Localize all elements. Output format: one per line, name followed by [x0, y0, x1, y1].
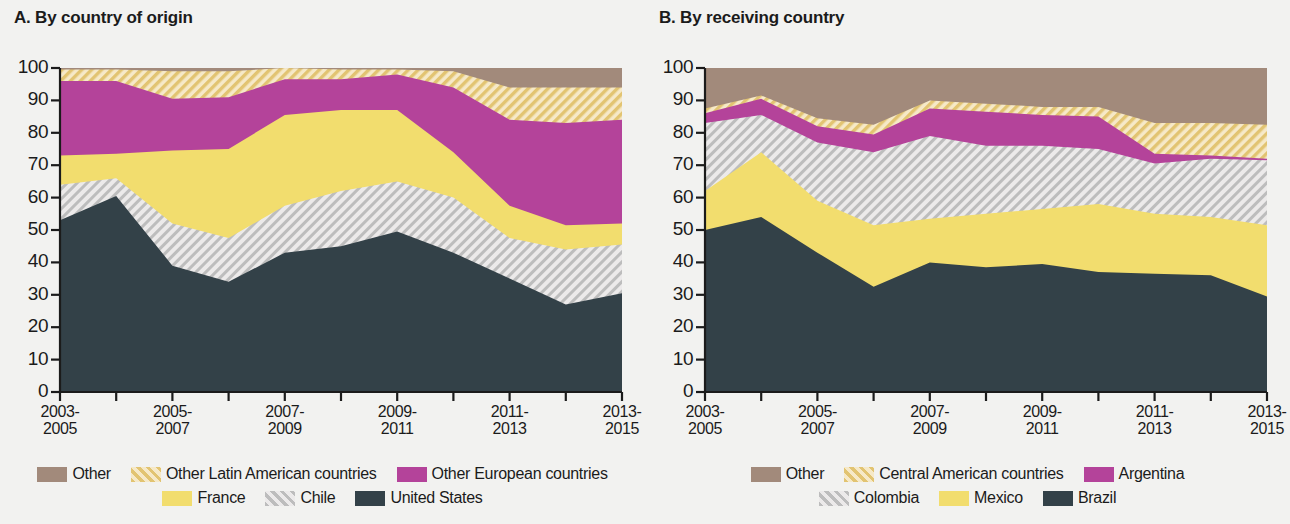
legend-row: OtherOther Latin American countriesOther…: [0, 462, 645, 486]
y-axis-label: 40: [647, 250, 693, 272]
legend-label-united_states: United States: [390, 489, 482, 507]
legend-label-other: Other: [72, 465, 111, 483]
x-axis-label: 2003-2005: [665, 403, 745, 437]
legend-swatch-other-icon: [37, 467, 67, 482]
y-axis-label: 40: [2, 250, 48, 272]
legend-item-central_american[interactable]: Central American countries: [844, 465, 1063, 483]
y-axis-label: 30: [647, 283, 693, 305]
legend-label-argentina: Argentina: [1119, 465, 1185, 483]
x-axis-label-line2: 2007: [777, 420, 857, 437]
y-axis-label: 30: [2, 283, 48, 305]
x-axis-label-line2: 2009: [890, 420, 970, 437]
legend-label-central_american: Central American countries: [879, 465, 1063, 483]
legend-label-other_europe: Other European countries: [432, 465, 608, 483]
x-axis-label-line2: 2007: [132, 420, 212, 437]
legend-item-mexico[interactable]: Mexico: [939, 489, 1023, 507]
y-axis-label: 70: [647, 153, 693, 175]
legend-swatch-central_american-icon: [844, 467, 874, 482]
y-axis-label: 90: [2, 88, 48, 110]
y-axis-label: 0: [2, 380, 48, 402]
x-axis-label-line2: 2009: [245, 420, 325, 437]
x-axis-label-line1: 2003-: [20, 403, 100, 420]
legend-item-other_europe[interactable]: Other European countries: [397, 465, 608, 483]
legend-swatch-other-icon: [751, 467, 781, 482]
legend-label-other: Other: [786, 465, 825, 483]
legend-swatch-chile-icon: [265, 491, 295, 506]
panel-a-plot: [0, 60, 645, 400]
x-axis-label: 2007-2009: [245, 403, 325, 437]
legend-swatch-other_europe-icon: [397, 467, 427, 482]
x-axis-label: 2011-2013: [1115, 403, 1195, 437]
panel-b-chart-svg: [645, 60, 1290, 445]
y-axis-label: 80: [647, 121, 693, 143]
x-axis-label-line1: 2005-: [777, 403, 857, 420]
panel-a-title: A. By country of origin: [14, 8, 193, 28]
x-axis-label-line2: 2013: [470, 420, 550, 437]
y-axis-label: 100: [2, 56, 48, 78]
legend-label-mexico: Mexico: [974, 489, 1023, 507]
legend-swatch-argentina-icon: [1084, 467, 1114, 482]
y-axis-label: 60: [647, 186, 693, 208]
legend-item-colombia[interactable]: Colombia: [819, 489, 919, 507]
legend-item-united_states[interactable]: United States: [355, 489, 482, 507]
x-axis-label-line2: 2005: [20, 420, 100, 437]
legend-item-other_latin[interactable]: Other Latin American countries: [131, 465, 377, 483]
legend-item-other[interactable]: Other: [37, 465, 111, 483]
y-axis-label: 10: [2, 348, 48, 370]
panel-b-title: B. By receiving country: [659, 8, 844, 28]
legend-swatch-france-icon: [162, 491, 192, 506]
legend-item-argentina[interactable]: Argentina: [1084, 465, 1185, 483]
y-axis-label: 70: [2, 153, 48, 175]
panel-a-legend: OtherOther Latin American countriesOther…: [0, 462, 645, 510]
legend-item-other[interactable]: Other: [751, 465, 825, 483]
legend-item-chile[interactable]: Chile: [265, 489, 335, 507]
x-axis-label: 2007-2009: [890, 403, 970, 437]
legend-swatch-brazil-icon: [1043, 491, 1073, 506]
panel-b-legend: OtherCentral American countriesArgentina…: [645, 462, 1290, 510]
x-axis-label-line1: 2007-: [890, 403, 970, 420]
panel-b: B. By receiving country OtherCentral Ame…: [645, 0, 1290, 524]
y-axis-label: 20: [2, 315, 48, 337]
x-axis-label: 2009-2011: [1002, 403, 1082, 437]
legend-row: ColombiaMexicoBrazil: [645, 486, 1290, 510]
legend-item-france[interactable]: France: [162, 489, 245, 507]
legend-label-other_latin: Other Latin American countries: [166, 465, 377, 483]
legend-label-colombia: Colombia: [854, 489, 919, 507]
y-axis-label: 0: [647, 380, 693, 402]
legend-swatch-other_latin-icon: [131, 467, 161, 482]
x-axis-label-line1: 2005-: [132, 403, 212, 420]
y-axis-label: 100: [647, 56, 693, 78]
x-axis-label: 2003-2005: [20, 403, 100, 437]
x-axis-label-line1: 2013-: [1227, 403, 1290, 420]
legend-swatch-united_states-icon: [355, 491, 385, 506]
legend-row: OtherCentral American countriesArgentina: [645, 462, 1290, 486]
x-axis-label-line1: 2003-: [665, 403, 745, 420]
y-axis-label: 80: [2, 121, 48, 143]
y-axis-label: 90: [647, 88, 693, 110]
x-axis-label: 2011-2013: [470, 403, 550, 437]
y-axis-label: 10: [647, 348, 693, 370]
y-axis-label: 50: [647, 218, 693, 240]
y-axis-label: 60: [2, 186, 48, 208]
y-axis-label: 20: [647, 315, 693, 337]
legend-row: FranceChileUnited States: [0, 486, 645, 510]
legend-swatch-colombia-icon: [819, 491, 849, 506]
x-axis-label-line1: 2011-: [470, 403, 550, 420]
x-axis-label-line1: 2009-: [357, 403, 437, 420]
panel-b-plot: [645, 60, 1290, 400]
x-axis-label: 2005-2007: [132, 403, 212, 437]
legend-item-brazil[interactable]: Brazil: [1043, 489, 1116, 507]
x-axis-label-line1: 2007-: [245, 403, 325, 420]
x-axis-label: 2009-2011: [357, 403, 437, 437]
x-axis-label: 2005-2007: [777, 403, 857, 437]
panel-a-chart-svg: [0, 60, 645, 445]
x-axis-label: 2013-2015: [1227, 403, 1290, 437]
x-axis-label-line2: 2013: [1115, 420, 1195, 437]
x-axis-label-line1: 2009-: [1002, 403, 1082, 420]
legend-label-chile: Chile: [300, 489, 335, 507]
legend-label-brazil: Brazil: [1078, 489, 1116, 507]
x-axis-label-line2: 2015: [1227, 420, 1290, 437]
x-axis-label-line2: 2005: [665, 420, 745, 437]
legend-swatch-mexico-icon: [939, 491, 969, 506]
x-axis-label-line2: 2011: [1002, 420, 1082, 437]
